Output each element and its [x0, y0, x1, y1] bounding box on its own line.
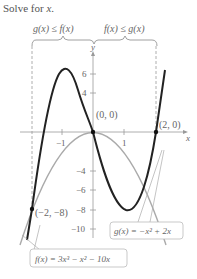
tick-x-neg1: −1 [56, 138, 66, 148]
region-right-label: f(x) ≤ g(x) [104, 23, 145, 35]
point-neg2-neg8 [30, 207, 34, 211]
f-leader-line [34, 225, 40, 250]
g-formula-label: g(x) = −x² + 2x [114, 226, 171, 236]
tick-x-1: 1 [122, 138, 127, 148]
point-2-0-label: (2, 0) [159, 119, 181, 131]
f-formula-label: f(x) = 3x³ − x² − 10x [35, 254, 110, 264]
point-2-0 [154, 130, 158, 134]
y-axis-label: y [90, 42, 95, 52]
tick-y-neg10: −10 [71, 224, 86, 234]
tick-y-neg4: −4 [76, 166, 86, 176]
tick-y-neg8: −8 [76, 205, 86, 215]
tick-y-6: 6 [82, 69, 87, 79]
x-axis-label: x [185, 133, 190, 143]
point-neg2-neg8-label: (−2, −8) [35, 207, 68, 219]
graph: g(x) ≤ f(x) f(x) ≤ g(x) x y −1 1 6 4 −4 … [0, 0, 197, 279]
region-left-label: g(x) ≤ f(x) [33, 23, 74, 35]
point-origin [91, 130, 95, 134]
tick-y-neg6: −6 [76, 185, 86, 195]
tick-y-4: 4 [82, 88, 87, 98]
point-origin-label: (0, 0) [96, 109, 118, 121]
